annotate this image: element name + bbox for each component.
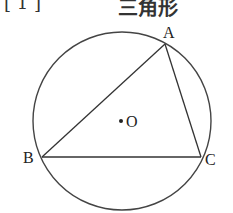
label-c: C	[205, 151, 216, 168]
edge-ab	[42, 44, 165, 157]
label-o: O	[126, 113, 138, 130]
label-a: A	[163, 24, 175, 41]
label-b: B	[23, 149, 34, 166]
center-point	[119, 119, 123, 123]
geometry-diagram: A B C O	[0, 0, 233, 213]
edge-ca	[165, 44, 201, 157]
